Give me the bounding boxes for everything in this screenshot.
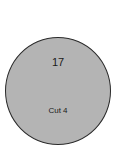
node-number: 17 — [6, 56, 110, 68]
cut-node-circle[interactable]: 17 Cut 4 — [5, 37, 111, 145]
node-label: Cut 4 — [6, 106, 110, 116]
diagram-canvas: 17 Cut 4 — [0, 0, 118, 152]
